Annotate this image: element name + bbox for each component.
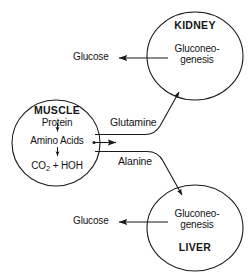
alanine-pathway-label: Alanine bbox=[118, 156, 152, 167]
liver-gluconeogenesis-line2: genesis bbox=[180, 220, 213, 231]
muscle-label: MUSCLE bbox=[34, 105, 80, 116]
muscle-amino-acids-label: Amino Acids bbox=[30, 136, 83, 147]
muscle-protein-label: Protein bbox=[42, 118, 73, 129]
kidney-gluconeogenesis-line2: genesis bbox=[180, 55, 213, 66]
kidney-label: KIDNEY bbox=[174, 20, 215, 31]
metabolism-diagram: KIDNEY Gluconeo- genesis Glucose MUSCLE … bbox=[0, 0, 251, 277]
co2-formula: CO bbox=[31, 160, 46, 171]
liver-label: LIVER bbox=[179, 242, 211, 253]
muscle-co2-hoh-label: CO2 + HOH bbox=[31, 161, 82, 173]
amino-acids-export-origin-dot bbox=[93, 141, 96, 144]
kidney-gluconeogenesis-line1: Gluconeo- bbox=[175, 44, 220, 55]
liver-gluconeogenesis-line1: Gluconeo- bbox=[175, 209, 220, 220]
co2-remainder: + HOH bbox=[50, 160, 83, 171]
liver-glucose-output-label: Glucose bbox=[73, 216, 109, 227]
kidney-glucose-output-label: Glucose bbox=[73, 52, 109, 63]
glutamine-pathway-label: Glutamine bbox=[110, 117, 157, 128]
